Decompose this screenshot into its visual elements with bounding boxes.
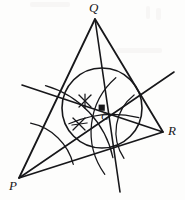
- cross-mark-upper: [79, 94, 91, 108]
- vertex-label-r: R: [168, 124, 176, 137]
- vertex-label-p: P: [9, 179, 17, 192]
- vertex-label-q: Q: [89, 1, 98, 14]
- geometry-figure: Q R P C: [0, 0, 185, 200]
- incenter-label-c: C: [101, 111, 108, 122]
- bisector-from-P: [19, 72, 174, 178]
- arc-from-R-inner: [116, 95, 134, 158]
- arc-from-P-inner: [31, 123, 74, 164]
- construction-drawing: [0, 0, 185, 200]
